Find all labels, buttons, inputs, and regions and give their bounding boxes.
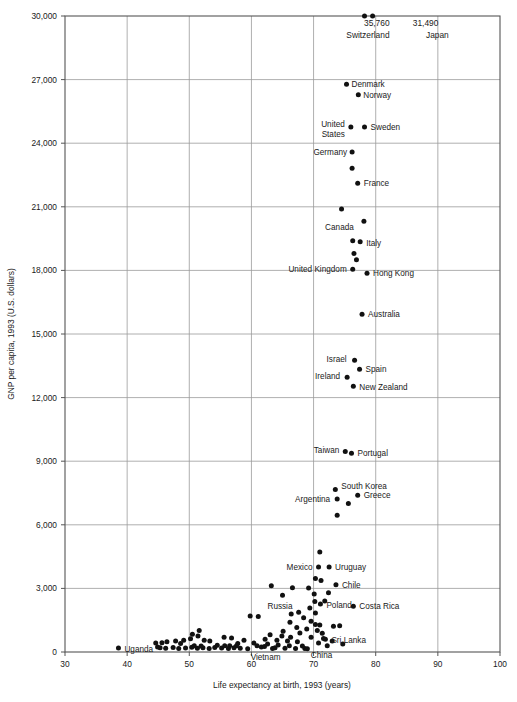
scatter-point	[316, 641, 321, 646]
scatter-point	[365, 271, 370, 276]
x-axis-title: Life expectancy at birth, 1993 (years)	[213, 680, 351, 690]
x-tick-label: 70	[309, 659, 319, 669]
x-tick-label: 50	[185, 659, 195, 669]
scatter-point	[320, 631, 325, 636]
point-label: United Kingdom	[288, 265, 346, 274]
y-tick-label: 6,000	[36, 520, 57, 530]
data-point-labels: DenmarkNorwayUnitedStatesSwedenGermanyFr…	[124, 80, 414, 662]
point-label: Poland	[326, 601, 352, 610]
scatter-point	[164, 639, 169, 644]
y-tick-label: 0	[52, 647, 57, 657]
scatter-point	[337, 623, 342, 628]
scatter-point	[159, 640, 164, 645]
scatter-point	[178, 641, 183, 646]
scatter-point	[352, 358, 357, 363]
scatter-point	[304, 627, 309, 632]
scatter-point	[279, 633, 284, 638]
scatter-point	[360, 312, 365, 317]
scatter-point	[262, 644, 267, 649]
point-label: Uganda	[124, 645, 153, 654]
scatter-plot-figure: 03,0006,0009,00012,00015,00018,00021,000…	[0, 0, 517, 702]
point-label: Hong Kong	[373, 269, 414, 278]
scatter-point	[300, 644, 305, 649]
point-label: Vietnam	[251, 653, 281, 662]
scatter-point	[192, 643, 197, 648]
scatter-point	[287, 620, 292, 625]
scatter-point	[309, 619, 314, 624]
scatter-point	[183, 645, 188, 650]
scatter-point	[344, 82, 349, 87]
data-points	[116, 14, 375, 652]
point-label: Italy	[366, 239, 382, 248]
point-label: Sweden	[371, 123, 401, 132]
scatter-point	[355, 493, 360, 498]
y-tick-label: 15,000	[31, 329, 57, 339]
x-tick-label: 30	[60, 659, 70, 669]
scatter-point	[361, 219, 366, 224]
scatter-point	[321, 636, 326, 641]
gnp-vs-life-expectancy-scatter: 03,0006,0009,00012,00015,00018,00021,000…	[0, 0, 517, 702]
scatter-point	[313, 576, 318, 581]
point-label: Uruguay	[335, 563, 367, 572]
scatter-point	[282, 646, 287, 651]
scatter-point	[307, 606, 312, 611]
scatter-point	[318, 601, 323, 606]
scatter-point	[268, 632, 273, 637]
point-label: Russia	[267, 602, 292, 611]
point-label: United	[321, 120, 345, 129]
scatter-point	[281, 629, 286, 634]
point-label: States	[322, 130, 345, 139]
scatter-point	[346, 501, 351, 506]
scatter-point	[327, 564, 332, 569]
scatter-point	[199, 644, 204, 649]
scatter-point	[357, 367, 362, 372]
y-tick-label: 18,000	[31, 265, 57, 275]
scatter-point	[297, 630, 302, 635]
value-annotation: 35,760	[364, 18, 390, 28]
y-tick-label: 30,000	[31, 11, 57, 21]
scatter-point	[222, 635, 227, 640]
x-axis-tick-labels: 30405060708090100	[60, 659, 507, 669]
scatter-point	[316, 564, 321, 569]
point-label: Germany	[313, 148, 348, 157]
scatter-point	[358, 239, 363, 244]
scatter-point	[306, 585, 311, 590]
scatter-point	[269, 583, 274, 588]
scatter-point	[173, 638, 178, 643]
scatter-point	[295, 639, 300, 644]
scatter-point	[317, 549, 322, 554]
scatter-point	[273, 645, 278, 650]
scatter-point	[222, 643, 227, 648]
scatter-point	[305, 646, 310, 651]
scatter-point	[290, 585, 295, 590]
scatter-point	[215, 643, 220, 648]
scatter-point	[287, 643, 292, 648]
point-label: Denmark	[352, 80, 386, 89]
scatter-point	[227, 643, 232, 648]
scatter-point	[312, 599, 317, 604]
scatter-point	[296, 610, 301, 615]
scatter-point	[348, 125, 353, 130]
x-tick-label: 40	[122, 659, 132, 669]
y-tick-label: 24,000	[31, 138, 57, 148]
point-label: Sri Lanka	[331, 636, 366, 645]
value-annotation: 31,490	[413, 18, 439, 28]
scatter-point	[356, 92, 361, 97]
scatter-point	[116, 645, 121, 650]
scatter-point	[294, 625, 299, 630]
value-annotations: 35,760Switzerland31,490Japan	[346, 18, 449, 40]
scatter-point	[241, 638, 246, 643]
scatter-point	[343, 449, 348, 454]
scatter-point	[345, 375, 350, 380]
scatter-point	[331, 624, 336, 629]
scatter-point	[362, 125, 367, 130]
scatter-point	[256, 614, 261, 619]
scatter-point	[301, 615, 306, 620]
scatter-point	[355, 181, 360, 186]
scatter-point	[335, 496, 340, 501]
scatter-point	[248, 613, 253, 618]
point-label: Greece	[364, 491, 391, 500]
point-label: Chile	[342, 581, 361, 590]
scatter-point	[202, 638, 207, 643]
scatter-point	[163, 646, 168, 651]
